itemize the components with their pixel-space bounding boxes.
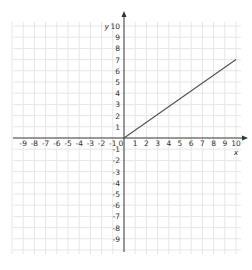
x-axis-arrow-icon [242, 136, 248, 141]
y-axis-arrow-icon [122, 11, 127, 17]
x-tick-label: 9 [222, 139, 227, 148]
y-tick-label: -1 [113, 145, 121, 154]
y-tick-label: -2 [113, 156, 121, 165]
y-tick-label: 6 [115, 67, 120, 76]
y-tick-label: 7 [115, 56, 120, 65]
y-tick-label: -5 [113, 190, 121, 199]
x-tick-label: 3 [155, 139, 160, 148]
x-tick-label: 6 [189, 139, 194, 148]
y-tick-label: -3 [113, 168, 121, 177]
y-tick-label: -4 [113, 179, 121, 188]
y-tick-label: 3 [115, 100, 120, 109]
y-tick-label: 10 [110, 22, 120, 31]
y-tick-label: 5 [115, 78, 120, 87]
y-tick-label: -8 [113, 224, 121, 233]
x-tick-label: -7 [42, 139, 50, 148]
x-tick-label: -2 [98, 139, 106, 148]
y-axis-label: y [104, 22, 110, 31]
x-tick-label: -4 [75, 139, 83, 148]
y-tick-label: -6 [113, 201, 121, 210]
x-tick-label: -9 [19, 139, 27, 148]
x-tick-label: 10 [231, 139, 241, 148]
x-tick-label: 5 [178, 139, 183, 148]
y-tick-label: 4 [115, 89, 120, 98]
y-tick-label: -9 [113, 235, 121, 244]
y-tick-label: 1 [115, 123, 120, 132]
y-tick-label: -7 [113, 212, 121, 221]
x-tick-label: 1 [133, 139, 138, 148]
tick-labels: -9-8-7-6-5-4-3-2-10123456789101098765432… [19, 22, 241, 244]
y-tick-label: 9 [115, 33, 120, 42]
x-tick-label: -6 [53, 139, 61, 148]
x-tick-label: 4 [166, 139, 171, 148]
x-tick-label: -8 [31, 139, 39, 148]
x-axis-label: x [233, 148, 239, 157]
x-tick-label: 8 [211, 139, 216, 148]
y-tick-label: 2 [115, 112, 120, 121]
x-tick-label: -5 [64, 139, 72, 148]
coordinate-plane: -9-8-7-6-5-4-3-2-10123456789101098765432… [0, 0, 252, 270]
x-tick-label: 7 [200, 139, 205, 148]
axes [13, 11, 248, 252]
y-tick-label: 8 [115, 44, 120, 53]
x-tick-label: -3 [87, 139, 95, 148]
x-tick-label: 2 [144, 139, 149, 148]
